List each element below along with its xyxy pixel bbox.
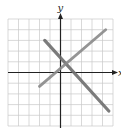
y-axis-arrow-icon <box>58 13 63 19</box>
x-axis <box>8 70 118 75</box>
coordinate-plane: x y <box>0 0 121 132</box>
x-axis-label: x <box>118 67 121 78</box>
y-axis-label: y <box>57 2 64 13</box>
rising-line <box>40 30 106 87</box>
